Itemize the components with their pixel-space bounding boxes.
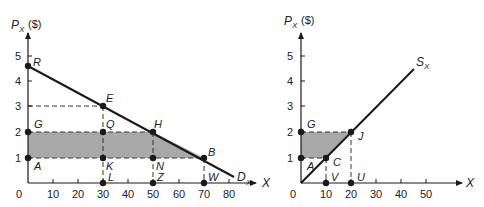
point-label-A: A — [33, 160, 41, 172]
point-A — [298, 155, 304, 161]
x-tick-label: 30 — [370, 188, 382, 200]
right-panel: 1 2 3 4 5 0 10 20 30 40 50 P X ($) X S X… — [284, 14, 475, 200]
point-label-W: W — [208, 171, 220, 183]
point-L — [100, 180, 106, 186]
point-label-V: V — [331, 171, 340, 183]
point-label-B: B — [208, 146, 215, 158]
y-tick-label: 1 — [287, 152, 293, 164]
point-label-E: E — [106, 92, 114, 104]
x-tick-label: 50 — [420, 188, 432, 200]
supply-curve-subscript: X — [423, 62, 430, 71]
y-tick-label: 5 — [287, 50, 293, 62]
y-tick-label: 3 — [287, 100, 293, 112]
y-tick-label: 5 — [15, 50, 21, 62]
demand-curve-subscript: X — [245, 178, 252, 187]
point-label-Q: Q — [106, 118, 115, 130]
point-G — [25, 129, 31, 135]
x-tick-label: 30 — [97, 188, 109, 200]
y-axis-unit: ($) — [301, 14, 314, 26]
x-tick-label: 50 — [147, 188, 159, 200]
point-label-C: C — [333, 156, 341, 168]
point-label-A: A — [306, 160, 314, 172]
supply-curve — [301, 69, 414, 183]
y-axis-subscript: X — [291, 21, 298, 30]
diagram-stage: 1 2 3 4 5 0 10 20 30 40 50 60 70 80 P X … — [0, 0, 484, 207]
y-tick-label: 2 — [15, 126, 21, 138]
point-label-R: R — [33, 56, 41, 68]
surplus-diagram: 1 2 3 4 5 0 10 20 30 40 50 60 70 80 P X … — [0, 0, 484, 207]
y-axis-unit: ($) — [28, 18, 41, 30]
point-U — [348, 180, 354, 186]
x-tick-label: 0 — [16, 188, 22, 200]
x-tick-label: 40 — [395, 188, 407, 200]
shaded-surplus-region — [28, 132, 204, 158]
x-tick-label: 10 — [47, 188, 59, 200]
points — [25, 63, 207, 186]
point-A — [25, 155, 31, 161]
point-label-Z: Z — [156, 171, 165, 183]
point-label-H: H — [154, 118, 162, 130]
point-label-L: L — [108, 171, 114, 183]
x-tick-label: 20 — [72, 188, 84, 200]
point-label-U: U — [357, 171, 365, 183]
point-V — [323, 180, 329, 186]
shaded-surplus-region — [301, 132, 351, 158]
y-axis-title: P — [284, 14, 292, 28]
point-label-J: J — [357, 130, 364, 142]
supply-curve-label: S — [416, 55, 424, 69]
point-C — [323, 155, 329, 161]
point-label-G: G — [34, 118, 43, 130]
y-tick-label: 4 — [15, 75, 21, 87]
x-axis-title: X — [261, 176, 271, 190]
y-tick-label: 4 — [287, 75, 293, 87]
x-tick-label: 80 — [223, 188, 235, 200]
point-G — [298, 129, 304, 135]
point-R — [25, 63, 31, 69]
left-panel: 1 2 3 4 5 0 10 20 30 40 50 60 70 80 P X … — [11, 18, 271, 200]
x-tick-label: 0 — [290, 188, 296, 200]
point-W — [201, 180, 207, 186]
y-tick-label: 3 — [15, 100, 21, 112]
y-axis-title: P — [11, 18, 19, 32]
x-tick-label: 60 — [173, 188, 185, 200]
y-axis-subscript: X — [18, 25, 25, 34]
point-label-G: G — [307, 118, 316, 130]
point-B — [201, 155, 207, 161]
point-J — [348, 129, 354, 135]
y-tick-label: 1 — [15, 152, 21, 164]
x-tick-label: 20 — [345, 188, 357, 200]
x-axis-title: X — [465, 176, 475, 190]
x-tick-label: 10 — [320, 188, 332, 200]
x-tick-label: 40 — [122, 188, 134, 200]
y-tick-label: 2 — [287, 126, 293, 138]
point-Z — [150, 180, 156, 186]
demand-curve-label: D — [237, 170, 246, 184]
x-tick-label: 70 — [198, 188, 210, 200]
